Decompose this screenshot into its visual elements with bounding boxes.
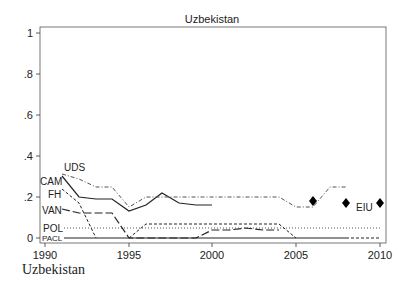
- y-tick-0: 0: [27, 232, 33, 244]
- series-fh-line-2: [129, 224, 296, 238]
- y-axis: [36, 33, 40, 238]
- chart-title: Uzbekistan: [185, 13, 239, 25]
- eiu-point-2006: [309, 196, 317, 206]
- y-tick-0.2: .2: [24, 191, 33, 203]
- x-tick-1990: 1990: [33, 249, 57, 261]
- label-uds: UDS: [64, 162, 85, 173]
- y-tick-0.8: .8: [24, 68, 33, 80]
- eiu-point-2008: [342, 198, 350, 208]
- series-uds-line: [62, 174, 346, 207]
- x-tick-2000: 2000: [200, 249, 224, 261]
- plot-frame: [40, 27, 386, 243]
- label-pol: POL: [43, 223, 63, 234]
- eiu-point-2010: [376, 198, 384, 208]
- x-axis: [45, 243, 380, 247]
- y-tick-1: 1: [27, 27, 33, 39]
- chart: Uzbekistan 0 .2 .4 .6 .8 1 1990 1995 200…: [0, 0, 412, 289]
- x-tick-1995: 1995: [117, 249, 141, 261]
- x-tick-2010: 2010: [368, 249, 392, 261]
- label-fh: FH: [48, 189, 61, 200]
- label-van: VAN: [42, 205, 62, 216]
- y-tick-0.4: .4: [24, 150, 33, 162]
- x-tick-2005: 2005: [284, 249, 308, 261]
- series-cam-line: [62, 176, 212, 211]
- label-cam: CAM: [40, 176, 62, 187]
- label-pacl: PACL: [42, 234, 63, 243]
- label-eiu: EIU: [356, 202, 373, 213]
- figure-caption: Uzbekistan: [22, 262, 85, 278]
- y-tick-0.6: .6: [24, 109, 33, 121]
